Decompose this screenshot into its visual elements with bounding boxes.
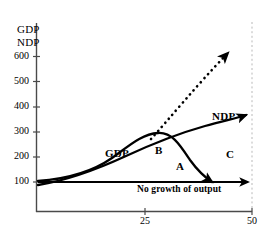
y-tick-label-300: 300: [5, 126, 29, 136]
chart-container: GDP NDP 600 500 400 300 200 100 25 50 GD…: [0, 0, 271, 234]
x-tick-label-50: 50: [240, 216, 264, 226]
potential-growth-dotted-path: [151, 54, 227, 139]
x-tick-label-25: 25: [133, 216, 157, 226]
ndp-curve-label: NDP: [212, 111, 236, 122]
ndp-curve: [38, 115, 246, 185]
y-axis-title-line1: GDP: [17, 24, 40, 35]
point-a-label: A: [176, 161, 184, 172]
gdp-curve-label: GDP: [105, 148, 129, 159]
point-b-label: B: [155, 145, 162, 156]
point-c-label: C: [226, 149, 234, 160]
y-axis-title-line2: NDP: [17, 37, 40, 48]
y-tick-label-100: 100: [5, 176, 29, 186]
y-tick-label-200: 200: [5, 151, 29, 161]
baseline-no-growth-label: No growth of output: [137, 185, 221, 195]
y-tick-label-400: 400: [5, 101, 29, 111]
y-tick-label-600: 600: [5, 51, 29, 61]
y-tick-label-500: 500: [5, 76, 29, 86]
